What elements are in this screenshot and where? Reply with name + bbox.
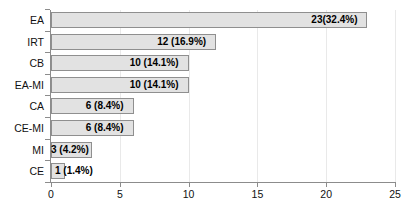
y-axis-label-ea-mi: EA-MI <box>0 77 44 93</box>
y-axis-label-mi: MI <box>0 142 44 158</box>
x-axis-label-5: 5 <box>105 188 135 200</box>
bar-row[interactable]: 10 (14.1%) <box>51 55 395 71</box>
bar-row[interactable]: 6 (8.4%) <box>51 120 395 136</box>
y-axis-label-ce-mi: CE-MI <box>0 120 44 136</box>
y-axis-label-ce: CE <box>0 163 44 179</box>
bar-row[interactable]: 23(32.4%) <box>51 12 395 28</box>
y-axis-tick <box>45 52 50 53</box>
bar-row[interactable]: 12 (16.9%) <box>51 34 395 50</box>
x-axis-label-10: 10 <box>174 188 204 200</box>
bar-value-label: 12 (16.9%) <box>51 34 206 50</box>
x-axis-tick <box>51 183 52 187</box>
x-axis-tick <box>120 183 121 187</box>
bar-value-label: 6 (8.4%) <box>51 120 124 136</box>
bar-value-label: 3 (4.2%) <box>51 142 82 158</box>
y-axis-tick <box>45 117 50 118</box>
bar-row[interactable]: 1 (1.4%) <box>51 163 395 179</box>
y-axis-tick <box>45 139 50 140</box>
x-axis-label-15: 15 <box>242 188 272 200</box>
gridline <box>395 10 396 182</box>
x-axis-tick <box>326 183 327 187</box>
y-axis-tick <box>45 160 50 161</box>
y-axis-label-ca: CA <box>0 98 44 114</box>
y-axis-label-cb: CB <box>0 55 44 71</box>
x-axis-tick <box>395 183 396 187</box>
bar-row[interactable]: 10 (14.1%) <box>51 77 395 93</box>
bar-value-label: 6 (8.4%) <box>51 98 124 114</box>
y-axis-tick <box>45 182 50 183</box>
x-axis-label-20: 20 <box>311 188 341 200</box>
bar-value-label: 10 (14.1%) <box>51 55 179 71</box>
x-axis-tick <box>189 183 190 187</box>
bar-row[interactable]: 3 (4.2%) <box>51 142 395 158</box>
y-axis-tick <box>45 9 50 10</box>
y-axis-label-irt: IRT <box>0 34 44 50</box>
bar-chart: EAIRTCBEA-MICACE-MIMICE 23(32.4%)12 (16.… <box>0 0 417 219</box>
y-axis-tick <box>45 95 50 96</box>
x-axis-line <box>50 182 396 183</box>
bar-row[interactable]: 6 (8.4%) <box>51 98 395 114</box>
x-axis-label-0: 0 <box>36 188 66 200</box>
bar-value-label: 1 (1.4%) <box>55 163 93 179</box>
bar-value-label: 23(32.4%) <box>51 12 357 28</box>
y-axis-label-ea: EA <box>0 12 44 28</box>
bar-value-label: 10 (14.1%) <box>51 77 179 93</box>
x-axis-tick <box>257 183 258 187</box>
y-axis-category-labels: EAIRTCBEA-MICACE-MIMICE <box>0 10 44 182</box>
x-axis-label-25: 25 <box>380 188 410 200</box>
y-axis-tick <box>45 31 50 32</box>
y-axis-tick <box>45 74 50 75</box>
